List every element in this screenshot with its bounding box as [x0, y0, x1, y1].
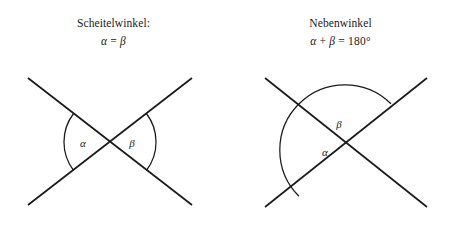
angle-arc-straight	[280, 85, 391, 196]
angle-arc-beta	[146, 114, 156, 171]
figure-nebenwinkel: Nebenwinkel α + β = 180° α β	[227, 0, 454, 227]
diagram-scheitelwinkel: α β	[0, 0, 227, 227]
geometry-figure-page: Scheitelwinkel: α = β α β Nebenwinkel α …	[0, 0, 454, 227]
angle-label-alpha: α	[80, 137, 86, 149]
angle-label-alpha: α	[322, 146, 328, 158]
diagram-nebenwinkel: α β	[227, 0, 454, 227]
angle-label-beta: β	[335, 118, 342, 130]
figure-scheitelwinkel: Scheitelwinkel: α = β α β	[0, 0, 227, 227]
angle-label-beta: β	[128, 137, 135, 149]
angle-arc-alpha	[64, 114, 74, 171]
